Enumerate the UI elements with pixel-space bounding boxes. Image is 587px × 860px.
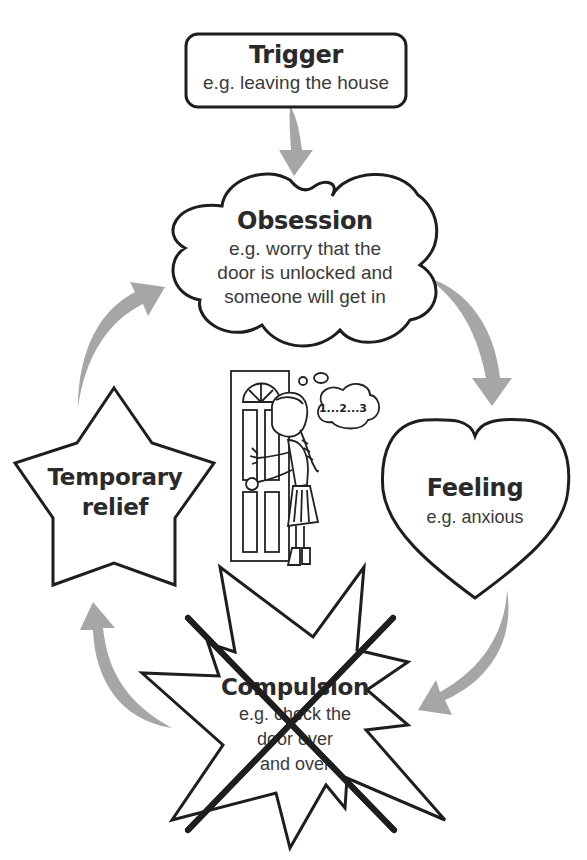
arrow-obsession-to-feeling (426, 277, 512, 406)
relief-node: Temporary relief (20, 462, 210, 522)
compulsion-node: Compulsion e.g. check the door over and … (200, 672, 390, 777)
obsession-example-line-3: someone will get in (180, 285, 430, 309)
girl-at-door-illustration (231, 371, 379, 565)
obsession-node: Obsession e.g. worry that the door is un… (180, 205, 430, 309)
relief-title-line-2: relief (20, 492, 210, 522)
compulsion-example-line-3: and over (200, 752, 390, 777)
compulsion-title: Compulsion (200, 672, 390, 702)
obsession-example-line-2: door is unlocked and (180, 261, 430, 285)
trigger-example: e.g. leaving the house (186, 70, 406, 96)
obsession-example-line-1: e.g. worry that the (180, 237, 430, 261)
feeling-example: e.g. anxious (395, 504, 555, 530)
arrow-trigger-to-obsession (279, 105, 313, 176)
trigger-title: Trigger (186, 40, 406, 70)
obsession-title: Obsession (180, 205, 430, 237)
compulsion-example-line-2: door over (200, 727, 390, 752)
compulsion-example-line-1: e.g. check the (200, 702, 390, 727)
arrow-compulsion-to-relief (80, 602, 172, 728)
relief-title-line-1: Temporary (20, 462, 210, 492)
thought-bubble-text: 1...2...3 (319, 402, 367, 415)
feeling-node: Feeling e.g. anxious (395, 472, 555, 530)
trigger-node: Trigger e.g. leaving the house (186, 40, 406, 96)
feeling-title: Feeling (395, 472, 555, 504)
arrow-feeling-to-compulsion (418, 590, 508, 715)
arrow-relief-to-obsession (78, 282, 165, 408)
